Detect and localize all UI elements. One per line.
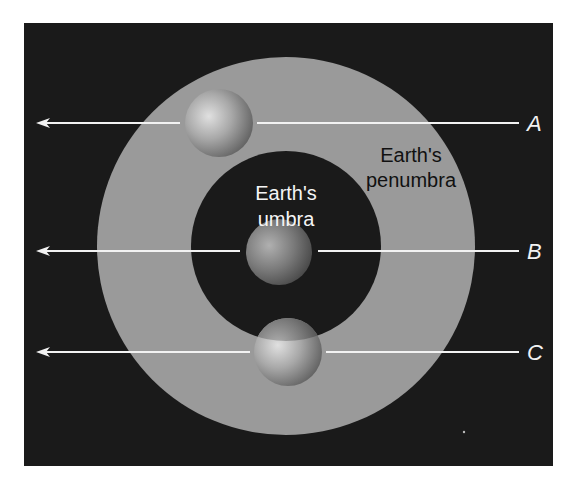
penumbra-label-line2: penumbra bbox=[366, 169, 457, 191]
path-c-label: C bbox=[527, 340, 543, 365]
path-b-label: B bbox=[527, 239, 542, 264]
path-a-label: A bbox=[525, 111, 542, 136]
umbra-label-line1: Earth's bbox=[255, 182, 317, 204]
moon-a bbox=[185, 89, 253, 157]
penumbra-label-line1: Earth's bbox=[380, 144, 442, 166]
umbra-label-line2: umbra bbox=[258, 208, 316, 230]
speck bbox=[463, 431, 465, 433]
lunar-eclipse-diagram: A B C Earth's umbra Earth's penumbra bbox=[0, 0, 571, 492]
